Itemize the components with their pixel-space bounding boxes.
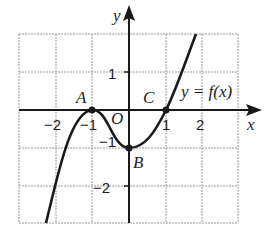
x-tick-label-minus2: −2 <box>44 116 61 133</box>
x-tick-label-1: 1 <box>162 116 170 133</box>
origin-label: O <box>111 109 123 128</box>
point-c-label: C <box>143 88 155 107</box>
point-c-marker <box>163 107 170 114</box>
y-tick-label-1: 1 <box>108 65 116 82</box>
y-tick-label-minus2: −2 <box>93 179 110 196</box>
y-axis-label: y <box>111 6 121 25</box>
point-b-marker <box>126 145 133 152</box>
y-tick-label-minus1: −1 <box>99 133 116 150</box>
function-curve <box>46 34 196 223</box>
function-label: y = f(x) <box>179 82 232 101</box>
x-axis-label: x <box>246 115 255 134</box>
x-tick-label-minus1: −1 <box>80 116 97 133</box>
point-a-label: A <box>75 88 87 107</box>
function-graph: y x O y = f(x) A B C −2 −1 1 2 1 −1 −2 <box>0 0 266 235</box>
x-tick-label-2: 2 <box>196 116 204 133</box>
point-a-marker <box>89 107 96 114</box>
point-b-label: B <box>133 153 144 172</box>
